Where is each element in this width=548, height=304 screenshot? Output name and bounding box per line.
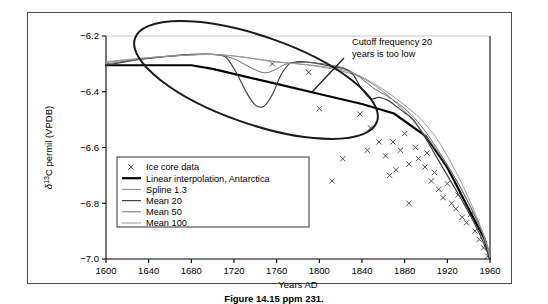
data-point-marker xyxy=(383,153,388,158)
data-point-marker xyxy=(390,139,395,144)
data-point-marker xyxy=(440,195,445,200)
ellipse-annotation-layer xyxy=(121,0,392,163)
x-tick-label: 1760 xyxy=(266,265,287,276)
data-point-marker xyxy=(449,201,454,206)
data-point-marker xyxy=(406,162,411,167)
legend-layer: Ice core dataLinear interpolation, Antar… xyxy=(117,157,309,228)
y-axis-superscript: 13 xyxy=(43,176,50,184)
data-point-marker xyxy=(387,173,392,178)
data-point-marker xyxy=(406,201,411,206)
x-tick-label: 1640 xyxy=(138,265,159,276)
data-point-marker xyxy=(416,156,421,161)
data-point-marker xyxy=(453,206,458,211)
data-point-marker xyxy=(330,178,335,183)
data-point-marker xyxy=(376,139,381,144)
y-axis-title: δ13C permil (VPDB) xyxy=(43,106,55,189)
y-tick-label: −6.4 xyxy=(80,86,99,97)
y-tick-label: −7.0 xyxy=(80,253,99,264)
data-point-marker xyxy=(422,164,427,169)
x-tick-label: 1880 xyxy=(394,265,415,276)
data-point-marker xyxy=(460,215,465,220)
data-point-marker xyxy=(436,187,441,192)
x-tick-label: 1920 xyxy=(437,265,458,276)
caption-layer: Figure 14.15 ppm 231. xyxy=(224,293,323,304)
data-point-marker xyxy=(306,70,311,75)
figure-caption: Figure 14.15 ppm 231. xyxy=(224,293,323,304)
data-point-marker xyxy=(317,106,322,111)
data-point-marker xyxy=(398,148,403,153)
chart-svg: −6.2−6.4−6.6−6.8−7.016001640168017201760… xyxy=(0,0,548,304)
data-point-marker xyxy=(365,148,370,153)
data-point-marker xyxy=(402,131,407,136)
data-point-marker xyxy=(424,150,429,155)
data-point-marker xyxy=(340,156,345,161)
y-tick-label: −6.2 xyxy=(80,30,99,41)
y-tick-label: −6.6 xyxy=(80,142,99,153)
figure-container: −6.2−6.4−6.6−6.8−7.016001640168017201760… xyxy=(0,0,548,304)
y-axis-title-rest: C permil (VPDB) xyxy=(43,106,54,176)
x-tick-label: 1800 xyxy=(309,265,330,276)
data-point-marker xyxy=(394,167,399,172)
legend-label: Ice core data xyxy=(146,162,200,172)
data-point-marker xyxy=(413,145,418,150)
legend-label: Mean 100 xyxy=(146,218,187,228)
y-tick-label: −6.8 xyxy=(80,198,99,209)
x-tick-label: 1960 xyxy=(479,265,500,276)
legend-label: Mean 50 xyxy=(146,207,182,217)
highlight-ellipse xyxy=(121,0,392,163)
data-point-marker xyxy=(357,111,362,116)
data-point-marker xyxy=(429,178,434,183)
data-point-marker xyxy=(445,181,450,186)
legend-label: Mean 20 xyxy=(146,196,182,206)
x-axis-title: Years AD xyxy=(278,279,317,290)
x-tick-label: 1680 xyxy=(181,265,202,276)
legend-label: Spline 1.3 xyxy=(146,185,187,195)
data-point-marker xyxy=(464,220,469,225)
x-tick-label: 1600 xyxy=(95,265,116,276)
x-tick-label: 1720 xyxy=(223,265,244,276)
legend-label: Linear interpolation, Antarctica xyxy=(146,174,270,184)
annotation-line-2: years is too low xyxy=(352,49,416,59)
x-tick-label: 1840 xyxy=(351,265,372,276)
annotation-line-1: Cutoff frequency 20 xyxy=(352,37,432,47)
data-point-marker xyxy=(432,170,437,175)
